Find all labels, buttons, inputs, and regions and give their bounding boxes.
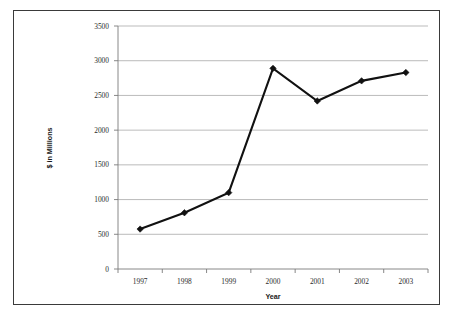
x-tick-label: 1998 xyxy=(177,277,192,286)
x-tick-label: 2001 xyxy=(310,277,325,286)
data-point-marker[interactable] xyxy=(358,78,364,84)
data-point-markers[interactable] xyxy=(137,65,409,232)
y-tick-label: 2000 xyxy=(94,126,109,135)
chart-border-frame: 0500100015002000250030003500 19971998199… xyxy=(13,10,440,305)
y-tick-label: 1500 xyxy=(94,160,109,169)
x-axis-title: Year xyxy=(265,292,280,301)
y-tick-label: 3500 xyxy=(94,22,109,31)
data-point-marker[interactable] xyxy=(226,189,232,195)
chart-figure: 0500100015002000250030003500 19971998199… xyxy=(0,0,453,322)
data-point-marker[interactable] xyxy=(403,69,409,75)
y-axis-tick-labels: 0500100015002000250030003500 xyxy=(94,22,109,274)
x-tick-label: 1997 xyxy=(133,277,148,286)
y-axis-title: $ in Millions xyxy=(45,127,54,168)
y-tick-label: 0 xyxy=(105,265,109,274)
y-tick-label: 2500 xyxy=(94,91,109,100)
data-point-marker[interactable] xyxy=(181,210,187,216)
y-tick-label: 500 xyxy=(98,230,109,239)
tick-mark-group xyxy=(114,26,428,273)
x-axis-tick-labels: 1997199819992000200120022003 xyxy=(133,277,414,286)
gridline-group xyxy=(118,26,428,234)
x-tick-label: 2000 xyxy=(266,277,281,286)
x-tick-label: 2002 xyxy=(354,277,369,286)
y-tick-label: 1000 xyxy=(94,195,109,204)
line-chart-plot[interactable]: 0500100015002000250030003500 19971998199… xyxy=(14,11,438,303)
data-point-marker[interactable] xyxy=(137,226,143,232)
data-series-line[interactable] xyxy=(140,68,406,229)
x-tick-label: 2003 xyxy=(398,277,413,286)
y-tick-label: 3000 xyxy=(94,56,109,65)
x-tick-label: 1999 xyxy=(221,277,236,286)
